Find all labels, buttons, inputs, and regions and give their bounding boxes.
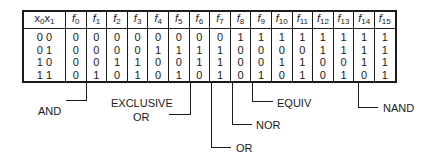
value-cell-f2: 0 bbox=[107, 69, 128, 83]
equiv-leader-vertical bbox=[252, 82, 253, 102]
truth-table: x0x1 f0 f1 f2 f3 f4 f5 f6 f7 f8 f9 f10 f… bbox=[22, 10, 397, 83]
value-cell-f0: 0 bbox=[66, 69, 87, 83]
f-sub: 5 bbox=[178, 17, 182, 26]
value-cell-f15: 1 bbox=[374, 56, 395, 69]
input-cell: 0 0 bbox=[23, 29, 66, 44]
f-sub: 3 bbox=[137, 17, 141, 26]
nand-leader-vertical bbox=[358, 82, 359, 108]
value-cell-f1: 0 bbox=[86, 44, 107, 57]
value-cell-f9: 1 bbox=[251, 69, 272, 83]
value-cell-f10: 0 bbox=[271, 69, 292, 83]
xor-leader-vertical bbox=[190, 82, 191, 115]
f-sub: 6 bbox=[199, 17, 203, 26]
f-sub: 11 bbox=[300, 17, 308, 26]
f-sub: 7 bbox=[219, 17, 223, 26]
equiv-label: EQUIV bbox=[277, 97, 311, 109]
value-cell-f5: 0 bbox=[168, 29, 189, 44]
value-cell-f13: 1 bbox=[333, 44, 354, 57]
value-cell-f12: 0 bbox=[313, 69, 334, 83]
value-cell-f7: 1 bbox=[210, 44, 231, 57]
value-cell-f8: 0 bbox=[230, 56, 251, 69]
f-sub: 10 bbox=[279, 17, 288, 26]
value-cell-f1: 0 bbox=[86, 56, 107, 69]
value-cell-f4: 0 bbox=[148, 29, 169, 44]
value-cell-f4: 0 bbox=[148, 56, 169, 69]
value-cell-f8: 1 bbox=[230, 29, 251, 44]
value-cell-f14: 0 bbox=[354, 69, 375, 83]
value-cell-f14: 1 bbox=[354, 44, 375, 57]
value-cell-f15: 1 bbox=[374, 69, 395, 83]
header-f12: f12 bbox=[313, 11, 334, 29]
value-cell-f7: 0 bbox=[210, 29, 231, 44]
nor-leader-vertical bbox=[232, 82, 233, 125]
header-f2: f2 bbox=[107, 11, 128, 29]
value-cell-f6: 1 bbox=[189, 44, 210, 57]
f-sub: 12 bbox=[320, 17, 329, 26]
header-f5: f5 bbox=[168, 11, 189, 29]
input-cell: 1 0 bbox=[23, 56, 66, 69]
header-f1: f1 bbox=[86, 11, 107, 29]
table-row: 0 00000000011111111 bbox=[23, 29, 396, 44]
header-f15: f15 bbox=[374, 11, 395, 29]
x1-sub: 1 bbox=[50, 17, 54, 26]
value-cell-f3: 1 bbox=[127, 69, 148, 83]
value-cell-f11: 0 bbox=[292, 44, 313, 57]
xor-leader-horizontal bbox=[169, 114, 191, 115]
f-sub: 8 bbox=[240, 17, 244, 26]
f-sub: 2 bbox=[116, 17, 120, 26]
and-label: AND bbox=[38, 105, 61, 117]
header-f3: f3 bbox=[127, 11, 148, 29]
header-f7: f7 bbox=[210, 11, 231, 29]
header-f14: f14 bbox=[354, 11, 375, 29]
value-cell-f11: 1 bbox=[292, 56, 313, 69]
and-leader-vertical bbox=[86, 82, 87, 101]
equiv-leader-horizontal bbox=[252, 101, 273, 102]
header-f0: f0 bbox=[66, 11, 87, 29]
header-f9: f9 bbox=[251, 11, 272, 29]
f-sub: 13 bbox=[341, 17, 350, 26]
header-row: x0x1 f0 f1 f2 f3 f4 f5 f6 f7 f8 f9 f10 f… bbox=[23, 11, 396, 29]
value-cell-f1: 0 bbox=[86, 29, 107, 44]
value-cell-f7: 1 bbox=[210, 56, 231, 69]
value-cell-f3: 1 bbox=[127, 56, 148, 69]
xor-label-line1: EXCLUSIVE bbox=[111, 97, 173, 109]
value-cell-f5: 0 bbox=[168, 56, 189, 69]
value-cell-f0: 0 bbox=[66, 44, 87, 57]
nand-label: NAND bbox=[383, 102, 414, 114]
value-cell-f0: 0 bbox=[66, 29, 87, 44]
value-cell-f5: 1 bbox=[168, 44, 189, 57]
f-sub: 4 bbox=[157, 17, 161, 26]
input-cell: 0 1 bbox=[23, 44, 66, 57]
value-cell-f0: 0 bbox=[66, 56, 87, 69]
value-cell-f5: 1 bbox=[168, 69, 189, 83]
table-body: 0 000000000111111110 100001111000011111 … bbox=[23, 29, 396, 83]
value-cell-f2: 1 bbox=[107, 56, 128, 69]
nor-leader-horizontal bbox=[232, 124, 252, 125]
value-cell-f8: 0 bbox=[230, 69, 251, 83]
value-cell-f10: 1 bbox=[271, 56, 292, 69]
f-sub: 15 bbox=[382, 17, 391, 26]
f-sub: 1 bbox=[96, 17, 100, 26]
table-row: 1 10101010101010101 bbox=[23, 69, 396, 83]
value-cell-f13: 0 bbox=[333, 56, 354, 69]
header-f4: f4 bbox=[148, 11, 169, 29]
header-f6: f6 bbox=[189, 11, 210, 29]
value-cell-f2: 0 bbox=[107, 29, 128, 44]
value-cell-f13: 1 bbox=[333, 69, 354, 83]
or-leader-vertical bbox=[211, 82, 212, 148]
value-cell-f14: 1 bbox=[354, 56, 375, 69]
value-cell-f4: 0 bbox=[148, 69, 169, 83]
value-cell-f9: 0 bbox=[251, 44, 272, 57]
value-cell-f12: 1 bbox=[313, 29, 334, 44]
value-cell-f12: 1 bbox=[313, 44, 334, 57]
input-header: x0x1 bbox=[23, 11, 66, 29]
table-row: 1 00011001100110011 bbox=[23, 56, 396, 69]
value-cell-f3: 0 bbox=[127, 44, 148, 57]
value-cell-f9: 0 bbox=[251, 56, 272, 69]
value-cell-f7: 1 bbox=[210, 69, 231, 83]
value-cell-f11: 1 bbox=[292, 69, 313, 83]
input-cell: 1 1 bbox=[23, 69, 66, 83]
f-sub: 14 bbox=[361, 17, 370, 26]
header-f8: f8 bbox=[230, 11, 251, 29]
value-cell-f10: 0 bbox=[271, 44, 292, 57]
